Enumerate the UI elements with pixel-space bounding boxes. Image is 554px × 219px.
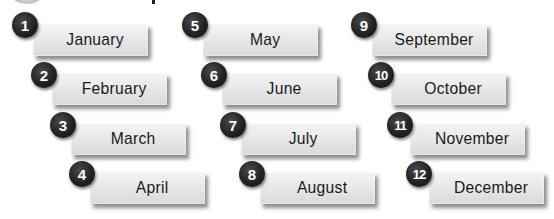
number-badge: 6 — [201, 62, 227, 88]
month-item-march: March — [66, 123, 191, 155]
month-item-august: August — [255, 172, 380, 204]
month-item-november: November — [405, 123, 530, 155]
number-badge: 1 — [12, 12, 38, 38]
month-label: July — [241, 123, 356, 155]
number-badge: 12 — [406, 161, 432, 187]
number-badge: 9 — [351, 12, 377, 38]
month-item-june: June — [217, 73, 342, 105]
number-badge: 8 — [239, 161, 265, 187]
month-item-july: July — [236, 123, 361, 155]
month-item-february: February — [47, 73, 172, 105]
month-item-september: September — [367, 24, 492, 56]
month-label: June — [222, 73, 337, 105]
month-item-may: May — [198, 24, 323, 56]
month-label: October — [391, 73, 506, 105]
number-badge: 11 — [387, 112, 413, 138]
heading-fragment-dot — [152, 0, 155, 4]
month-label: August — [260, 172, 375, 204]
month-label: September — [372, 24, 487, 56]
month-item-january: January — [28, 24, 153, 56]
number-badge: 5 — [182, 12, 208, 38]
month-item-april: April — [85, 172, 210, 204]
month-item-october: October — [386, 73, 511, 105]
number-badge: 2 — [31, 62, 57, 88]
number-badge: 10 — [368, 62, 394, 88]
heading-fragment — [12, 0, 42, 4]
month-label: May — [203, 24, 318, 56]
month-item-december: December — [424, 172, 549, 204]
month-label: January — [33, 24, 148, 56]
number-badge: 7 — [220, 112, 246, 138]
month-label: March — [71, 123, 186, 155]
month-label: December — [429, 172, 544, 204]
number-badge: 4 — [69, 161, 95, 187]
month-label: February — [52, 73, 167, 105]
number-badge: 3 — [50, 112, 76, 138]
month-label: April — [90, 172, 205, 204]
month-label: November — [410, 123, 525, 155]
